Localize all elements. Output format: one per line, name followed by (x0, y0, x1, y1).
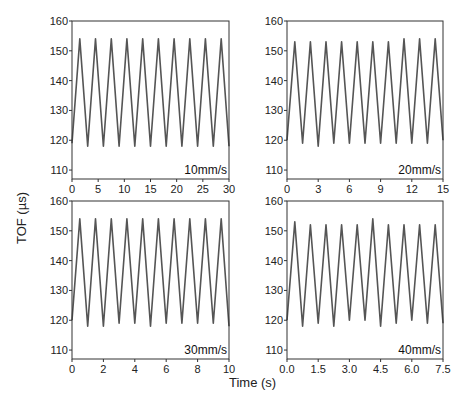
x-tick-label: 5 (95, 183, 101, 195)
y-tick-label: 150 (50, 225, 68, 237)
y-tick-label: 130 (50, 284, 68, 296)
x-tick-label: 15 (437, 183, 449, 195)
x-tick-label: 6 (346, 183, 352, 195)
x-tick-label: 6.0 (404, 363, 419, 375)
x-tick-label: 25 (197, 183, 209, 195)
panel-2: 1101201301401501600369121520mm/s (265, 15, 449, 195)
x-tick-label: 15 (144, 183, 156, 195)
y-tick-label: 120 (50, 314, 68, 326)
y-tick-label: 130 (50, 104, 68, 116)
x-tick-label: 2 (100, 363, 106, 375)
tof-line (72, 219, 229, 326)
panel-1: 11012013014015016005101520253010mm/s (50, 15, 235, 195)
figure: 11012013014015016005101520253010mm/s1101… (0, 0, 468, 412)
x-tick-label: 0.0 (279, 363, 294, 375)
x-axis-label: Time (s) (229, 375, 276, 390)
y-axis-label: TOF (µs) (14, 188, 29, 248)
speed-annotation: 10mm/s (184, 163, 227, 177)
speed-annotation: 40mm/s (398, 343, 441, 357)
y-tick-label: 150 (265, 45, 283, 57)
x-tick-label: 6 (163, 363, 169, 375)
speed-annotation: 30mm/s (184, 343, 227, 357)
y-tick-label: 130 (265, 104, 283, 116)
x-tick-label: 20 (171, 183, 183, 195)
y-tick-label: 160 (50, 195, 68, 207)
x-tick-label: 10 (223, 363, 235, 375)
y-tick-label: 130 (265, 284, 283, 296)
y-tick-label: 160 (50, 15, 68, 27)
x-tick-label: 3.0 (342, 363, 357, 375)
tof-line (72, 39, 229, 146)
x-tick-label: 30 (223, 183, 235, 195)
panel-3: 110120130140150160024681030mm/s (50, 195, 235, 375)
y-tick-label: 150 (265, 225, 283, 237)
x-tick-label: 1.5 (311, 363, 326, 375)
x-tick-label: 12 (406, 183, 418, 195)
y-tick-label: 160 (265, 15, 283, 27)
tof-line (287, 39, 443, 146)
y-tick-label: 140 (50, 75, 68, 87)
x-tick-label: 4 (132, 363, 138, 375)
y-tick-label: 120 (265, 314, 283, 326)
y-tick-label: 120 (50, 134, 68, 146)
x-tick-label: 8 (195, 363, 201, 375)
y-tick-label: 140 (265, 75, 283, 87)
x-tick-label: 0 (284, 183, 290, 195)
x-tick-label: 3 (315, 183, 321, 195)
panel-4: 1101201301401501600.01.53.04.56.07.540mm… (265, 195, 451, 375)
x-tick-label: 10 (118, 183, 130, 195)
y-tick-label: 140 (265, 255, 283, 267)
y-tick-label: 110 (50, 344, 68, 356)
x-tick-label: 0 (69, 363, 75, 375)
speed-annotation: 20mm/s (398, 163, 441, 177)
y-tick-label: 110 (50, 164, 68, 176)
y-tick-label: 110 (265, 164, 283, 176)
x-tick-label: 0 (69, 183, 75, 195)
y-tick-label: 150 (50, 45, 68, 57)
y-tick-label: 110 (265, 344, 283, 356)
y-tick-label: 120 (265, 134, 283, 146)
x-tick-label: 7.5 (435, 363, 450, 375)
y-tick-label: 140 (50, 255, 68, 267)
y-tick-label: 160 (265, 195, 283, 207)
x-tick-label: 4.5 (373, 363, 388, 375)
tof-line (287, 219, 443, 326)
x-tick-label: 9 (378, 183, 384, 195)
